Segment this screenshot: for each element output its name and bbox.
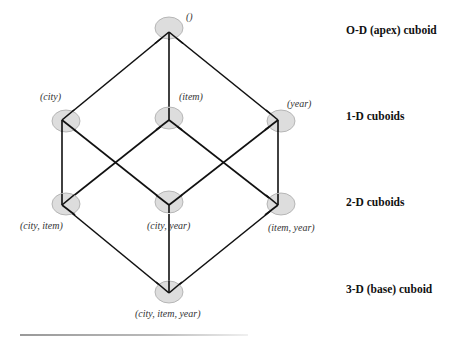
nodes (52, 17, 295, 303)
edge-apex-city (62, 32, 169, 120)
edges-overlay (62, 32, 278, 293)
node-label-city-item: (city, item) (20, 220, 63, 231)
level-label-0d: O-D (apex) cuboid (346, 24, 437, 36)
level-label-3d: 3-D (base) cuboid (346, 283, 432, 295)
node-label-city-year: (city, year) (147, 220, 190, 231)
bottom-divider (20, 334, 248, 336)
node-item-year (267, 193, 295, 215)
node-label-city: (city) (40, 91, 61, 102)
node-label-base: (city, item, year) (135, 308, 201, 319)
node-label-item-year: (item, year) (268, 222, 315, 233)
node-label-apex: () (186, 11, 193, 22)
node-label-item: (item) (179, 91, 203, 102)
level-label-1d: 1-D cuboids (346, 110, 404, 122)
edge-cityitem-base (62, 205, 169, 293)
node-label-year: (year) (287, 98, 311, 109)
level-label-2d: 2-D cuboids (346, 196, 404, 208)
node-city (52, 110, 80, 132)
edge-itemyear-base (169, 205, 278, 293)
node-city-item (52, 193, 80, 215)
edge-apex-year (169, 32, 278, 120)
edges (62, 32, 278, 293)
